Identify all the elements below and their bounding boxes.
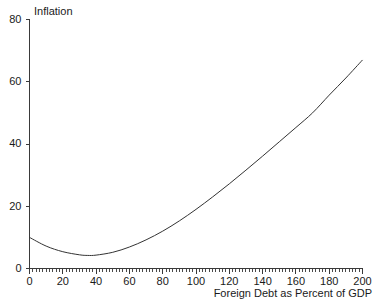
y-tick-label: 60 — [9, 75, 21, 87]
x-tick-label: 0 — [26, 275, 32, 287]
chart-container: 020406080 020406080100120140160180200 In… — [0, 0, 376, 306]
y-tick-label: 40 — [9, 137, 21, 149]
y-tick-label: 0 — [15, 262, 21, 274]
data-series-group — [30, 60, 363, 256]
y-tick-label: 20 — [9, 200, 21, 212]
inflation-vs-foreign-debt-chart: 020406080 020406080100120140160180200 In… — [0, 0, 376, 306]
y-axis-title: Inflation — [34, 5, 73, 17]
y-axis: 020406080 — [9, 13, 29, 274]
x-axis-tick-labels: 020406080100120140160180200 — [26, 275, 371, 287]
x-tick-label: 160 — [287, 275, 305, 287]
x-tick-label: 80 — [157, 275, 169, 287]
x-tick-label: 200 — [353, 275, 371, 287]
x-tick-label: 40 — [90, 275, 102, 287]
inflation-curve — [30, 60, 363, 256]
x-tick-label: 60 — [123, 275, 135, 287]
x-axis: 020406080100120140160180200 — [26, 269, 371, 287]
x-tick-label: 20 — [57, 275, 69, 287]
y-axis-ticks — [26, 20, 30, 269]
x-tick-label: 100 — [187, 275, 205, 287]
x-tick-label: 180 — [320, 275, 338, 287]
x-tick-label: 120 — [220, 275, 238, 287]
x-axis-title: Foreign Debt as Percent of GDP — [214, 287, 372, 299]
x-tick-label: 140 — [253, 275, 271, 287]
y-tick-label: 80 — [9, 13, 21, 25]
y-axis-tick-labels: 020406080 — [9, 13, 21, 274]
